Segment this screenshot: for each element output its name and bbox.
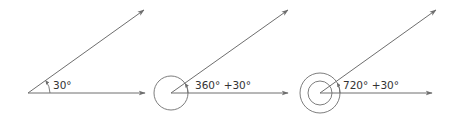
angle-label: 720° +30° [343, 79, 399, 91]
figure-390-degrees: 360° +30° [154, 10, 288, 110]
angle-label: 360° +30° [195, 79, 251, 91]
angle-arc-icon [46, 81, 50, 93]
angle-arc-icon [186, 84, 189, 93]
angle-label: 30° [53, 79, 72, 91]
terminal-side-ray [28, 10, 144, 93]
figure-30-degrees: 30° [28, 10, 145, 93]
figure-750-degrees: 720° +30° [300, 10, 436, 113]
coterminal-angles-diagram: 30° 360° +30° 720° +30° [0, 0, 459, 118]
